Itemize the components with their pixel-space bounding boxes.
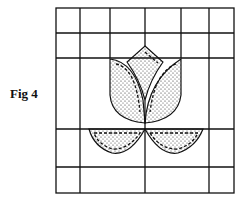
tulip-diagram bbox=[0, 0, 246, 204]
right-leaf bbox=[145, 129, 203, 153]
